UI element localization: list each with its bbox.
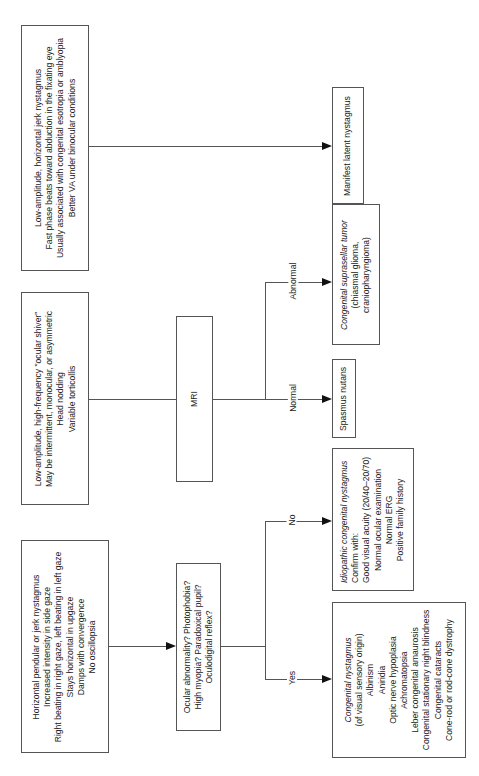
box-spasmus-nutans: Spasmus nutans (332, 359, 356, 438)
arrow-to-tumor (322, 278, 332, 286)
label-yes: Yes (287, 670, 297, 686)
spasmus-text: Spasmus nutans (338, 366, 349, 430)
label-no: No (287, 514, 297, 527)
box-mri: MRI (176, 316, 213, 482)
connector-mri-out (213, 399, 265, 400)
arrow-to-question (166, 642, 176, 650)
connector-normal-abnormal-vertical (265, 282, 266, 399)
question-text: Ocular abnormality? Photophobia? High my… (182, 581, 216, 713)
box-ocular-shiver: Low-amplitude, high-frequency "ocular sh… (21, 292, 89, 505)
label-abnormal: Abnormal (288, 262, 298, 301)
connector-latent-to-manifest (89, 146, 322, 147)
arrow-to-manifest (322, 142, 332, 150)
congenital-text: Congenital nystagmus (of visual sensory … (343, 610, 455, 750)
box-manifest-latent-nystagmus: Manifest latent nystagmus (332, 87, 364, 204)
connector-question-out (221, 646, 265, 647)
connector-pendular-to-question (109, 646, 166, 647)
manifest-text: Manifest latent nystagmus (342, 96, 353, 196)
arrow-to-congenital (322, 675, 332, 683)
box-idiopathic-congenital-nystagmus: Idiopathic congenital nystagmus Confirm … (332, 448, 414, 591)
mri-text: MRI (189, 391, 200, 407)
arrow-to-idiopathic (322, 517, 332, 525)
latent-text: Low-amplitude, horizontal jerk nystagmus… (33, 38, 78, 258)
idiopathic-text: Idiopathic congenital nystagmus Confirm … (339, 456, 406, 582)
box-pendular-nystagmus: Horizontal pendular or jerk nystagmus In… (21, 540, 109, 753)
box-ocular-abnormality-question: Ocular abnormality? Photophobia? High my… (176, 563, 221, 731)
label-normal: Normal (288, 383, 298, 413)
connector-shiver-to-mri (89, 399, 176, 400)
shiver-text: Low-amplitude, high-frequency "ocular sh… (33, 310, 78, 486)
pendular-text: Horizontal pendular or jerk nystagmus In… (31, 551, 98, 742)
box-congenital-nystagmus: Congenital nystagmus (of visual sensory … (332, 602, 466, 758)
connector-yes-no-vertical (265, 521, 266, 679)
box-latent-nystagmus: Low-amplitude, horizontal jerk nystagmus… (21, 25, 89, 271)
tumor-text: Congenital suprasellar tumor (chiasmal g… (339, 220, 373, 330)
arrow-to-spasmus (322, 395, 332, 403)
box-suprasellar-tumor: Congenital suprasellar tumor (chiasmal g… (332, 204, 380, 345)
